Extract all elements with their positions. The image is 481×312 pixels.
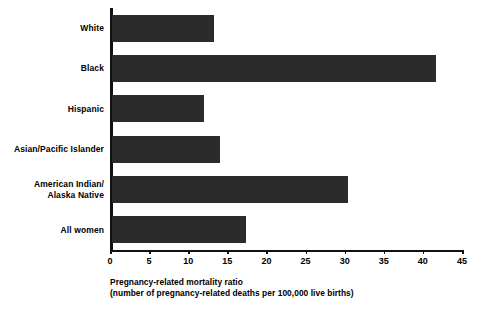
bar-black: [112, 55, 436, 82]
category-label-black: Black: [0, 63, 104, 74]
category-label-hispanic: Hispanic: [0, 104, 104, 115]
x-tick-label-40: 40: [408, 255, 438, 267]
x-tick-label-25: 25: [291, 255, 321, 267]
x-axis-tick-labels: 051015202530354045: [0, 255, 481, 269]
bar-american-indian-alaska-native: [112, 176, 348, 203]
x-tick-mark-40: [423, 250, 425, 254]
x-tick-label-45: 45: [447, 255, 477, 267]
category-label-american-indian-alaska-native: American Indian/ Alaska Native: [0, 179, 104, 200]
x-axis-caption-line-1: Pregnancy-related mortality ratio: [110, 277, 470, 288]
x-axis-caption-line-2: (number of pregnancy-related deaths per …: [110, 288, 470, 299]
x-axis-caption: Pregnancy-related mortality ratio (numbe…: [110, 277, 470, 299]
pregnancy-mortality-bar-chart: White Black Hispanic Asian/Pacific Islan…: [0, 0, 481, 312]
x-tick-label-5: 5: [134, 255, 164, 267]
x-tick-mark-0: [110, 250, 112, 254]
x-tick-mark-45: [462, 250, 464, 254]
x-tick-label-10: 10: [173, 255, 203, 267]
x-tick-mark-20: [266, 250, 268, 254]
x-tick-label-35: 35: [369, 255, 399, 267]
x-tick-mark-10: [188, 250, 190, 254]
x-tick-label-30: 30: [330, 255, 360, 267]
category-label-white: White: [0, 23, 104, 34]
bar-white: [112, 15, 214, 42]
category-label-all-women: All women: [0, 225, 104, 236]
x-tick-mark-15: [227, 250, 229, 254]
x-tick-label-15: 15: [212, 255, 242, 267]
x-tick-label-0: 0: [95, 255, 125, 267]
y-axis-line: [110, 8, 113, 250]
bar-all-women: [112, 216, 246, 243]
x-tick-mark-5: [149, 250, 151, 254]
bar-asian-pacific-islander: [112, 136, 220, 163]
plot-area: [110, 8, 470, 250]
category-label-asian-pacific-islander: Asian/Pacific Islander: [0, 144, 104, 155]
x-tick-mark-25: [306, 250, 308, 254]
x-tick-mark-30: [345, 250, 347, 254]
x-tick-label-20: 20: [251, 255, 281, 267]
x-tick-mark-35: [384, 250, 386, 254]
bar-hispanic: [112, 95, 204, 122]
category-axis-labels: White Black Hispanic Asian/Pacific Islan…: [0, 0, 104, 252]
